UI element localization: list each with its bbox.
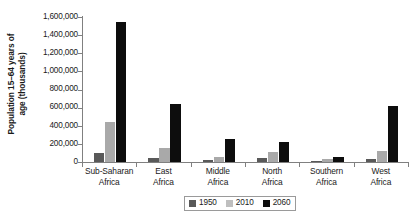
y-axis-tick-mark	[78, 90, 82, 91]
legend-swatch-2060	[263, 200, 270, 207]
chart-legend: 195020102060	[184, 196, 296, 211]
y-axis-tick-mark	[78, 126, 82, 127]
bar-group	[148, 17, 181, 162]
bar-group	[94, 17, 127, 162]
y-axis-tick-label: 200,000	[32, 140, 78, 148]
y-axis-tick-mark	[78, 17, 82, 18]
legend-item-2010: 2010	[226, 199, 254, 207]
bar-2010	[322, 159, 333, 162]
y-axis-tick-label: 1,000,000	[32, 67, 78, 75]
bar-2060	[279, 142, 290, 162]
y-axis-tick-label: 1,200,000	[32, 49, 78, 57]
bar-2060	[388, 106, 399, 162]
bar-1950	[94, 153, 105, 162]
y-axis-title: Population 15–64 years of age (thousands…	[0, 0, 34, 168]
x-axis-tick-mark	[354, 163, 355, 167]
bar-1950	[257, 158, 268, 162]
bar-2010	[268, 152, 279, 162]
y-axis-tick-mark	[78, 35, 82, 36]
y-axis-tick-label: 600,000	[32, 103, 78, 111]
x-axis-category-label: WestAfrica	[347, 166, 413, 187]
bar-1950	[311, 161, 322, 162]
bar-group	[366, 17, 399, 162]
bar-1950	[148, 158, 159, 162]
bar-2060	[170, 104, 181, 162]
legend-swatch-2010	[226, 200, 233, 207]
y-axis-tick-mark	[78, 144, 82, 145]
legend-item-2060: 2060	[263, 199, 291, 207]
bar-2060	[116, 22, 127, 162]
plot-bars-layer	[83, 17, 409, 162]
y-axis-tick-label: 0	[32, 158, 78, 166]
bar-1950	[366, 159, 377, 162]
bar-group	[203, 17, 236, 162]
legend-item-1950: 1950	[189, 199, 217, 207]
bar-group	[257, 17, 290, 162]
y-axis-tick-mark	[78, 108, 82, 109]
bar-2010	[214, 157, 225, 162]
bar-1950	[203, 160, 214, 162]
bar-2060	[225, 139, 236, 162]
y-axis-title-line-1: Population 15–64 years of	[6, 34, 17, 135]
y-axis-tick-label: 400,000	[32, 122, 78, 130]
x-axis-tick-mark	[299, 163, 300, 167]
x-axis-tick-mark	[136, 163, 137, 167]
bar-2010	[377, 151, 388, 162]
y-axis-tick-mark	[78, 71, 82, 72]
x-axis-category-label-line: West	[347, 166, 413, 177]
legend-label-1950: 1950	[199, 199, 217, 207]
legend-label-2060: 2060	[273, 199, 291, 207]
bar-chart-figure: Population 15–64 years of age (thousands…	[0, 0, 413, 218]
y-axis-tick-label: 800,000	[32, 85, 78, 93]
y-axis-tick-labels: 0200,000400,000600,000800,0001,000,0001,…	[32, 0, 78, 218]
x-axis-tick-mark	[408, 163, 409, 167]
legend-label-2010: 2010	[236, 199, 254, 207]
x-axis-tick-mark	[245, 163, 246, 167]
x-axis-category-labels: Sub-SaharanAfricaEastAfricaMiddleAfricaN…	[82, 166, 409, 192]
y-axis-title-line-2: age (thousands)	[17, 34, 28, 135]
x-axis-category-label-line: Africa	[347, 177, 413, 188]
y-axis-tick-mark	[78, 53, 82, 54]
bar-2010	[159, 148, 170, 163]
x-axis-tick-mark	[82, 163, 83, 167]
bar-group	[311, 17, 344, 162]
legend-swatch-1950	[189, 200, 196, 207]
bar-2060	[333, 157, 344, 162]
y-axis-tick-label: 1,600,000	[32, 13, 78, 21]
bar-2010	[105, 122, 116, 162]
x-axis-tick-mark	[191, 163, 192, 167]
y-axis-tick-label: 1,400,000	[32, 31, 78, 39]
